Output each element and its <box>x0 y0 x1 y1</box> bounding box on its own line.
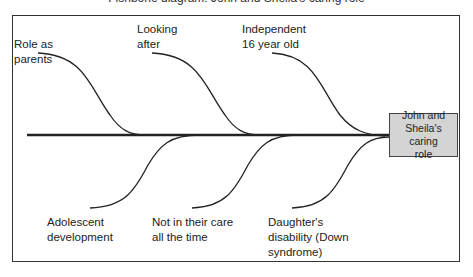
cause-label-line: disability (Down <box>268 230 349 245</box>
bone-bottom-1 <box>90 135 200 208</box>
cause-label-line: syndrome) <box>268 245 349 260</box>
cause-not-in-their-care: Not in their care all the time <box>152 215 233 245</box>
bone-top-1 <box>38 53 145 135</box>
cause-label-line: Not in their care <box>152 215 233 230</box>
cause-label-line: Role as <box>14 37 53 52</box>
effect-label-line: John and <box>391 109 456 122</box>
effect-label-line: Sheila's caring <box>391 122 456 148</box>
cause-label-line: Adolescent <box>47 215 113 230</box>
cause-daughters-disability: Daughter's disability (Down syndrome) <box>268 215 349 260</box>
cause-label-line: all the time <box>152 230 233 245</box>
cause-adolescent-development: Adolescent development <box>47 215 113 245</box>
cause-label-line: parents <box>14 52 53 67</box>
bone-top-2 <box>152 53 260 135</box>
cause-independent-16-year-old: Independent 16 year old <box>242 22 306 52</box>
effect-label-line: role <box>391 148 456 161</box>
effect-box: John and Sheila's caring role <box>389 113 458 157</box>
cause-role-as-parents: Role as parents <box>14 37 53 67</box>
cause-label-line: Looking <box>137 22 177 37</box>
cause-label-line: Daughter's <box>268 215 349 230</box>
cause-looking-after: Looking after <box>137 22 177 52</box>
cause-label-line: development <box>47 230 113 245</box>
cause-label-line: Independent <box>242 22 306 37</box>
bone-bottom-3 <box>292 137 389 208</box>
bone-top-3 <box>272 53 385 136</box>
cause-label-line: 16 year old <box>242 37 306 52</box>
cause-label-line: after <box>137 37 177 52</box>
bone-bottom-2 <box>192 135 298 208</box>
